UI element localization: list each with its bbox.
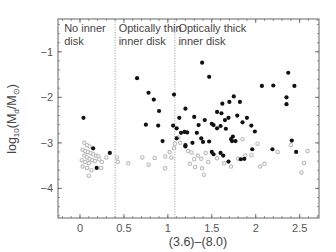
detection-marker: [226, 159, 230, 163]
detection-marker: [235, 113, 239, 117]
upper-limit-marker: [85, 166, 88, 169]
upper-limit-marker: [258, 165, 261, 168]
upper-limit-marker: [170, 156, 173, 159]
detection-marker: [195, 131, 199, 135]
detection-marker: [245, 116, 249, 120]
detection-marker: [91, 146, 95, 150]
detection-marker: [210, 122, 214, 126]
detection-marker: [215, 126, 219, 130]
y-tick-label: −2: [40, 91, 53, 103]
detection-marker: [270, 147, 274, 151]
detection-marker: [226, 116, 230, 120]
upper-limit-marker: [263, 162, 266, 165]
detection-marker: [292, 84, 296, 88]
detection-marker: [233, 139, 237, 143]
detection-marker: [250, 147, 254, 151]
detection-marker: [238, 100, 242, 104]
detection-marker: [284, 95, 288, 99]
detection-marker: [224, 127, 228, 131]
detection-marker: [286, 71, 290, 75]
upper-limit-marker: [80, 158, 83, 161]
detection-marker: [190, 141, 194, 145]
x-tick-label: 0: [77, 222, 83, 234]
upper-limit-marker: [100, 160, 103, 163]
upper-limit-marker: [229, 165, 232, 168]
upper-limit-marker: [215, 157, 218, 160]
upper-limit-marker: [256, 142, 259, 145]
detection-marker: [253, 129, 257, 133]
upper-limit-marker: [115, 156, 118, 159]
upper-limit-marker: [164, 155, 167, 158]
x-axis-title: (3.6)–(8.0): [169, 235, 227, 249]
detection-marker: [175, 136, 179, 140]
detection-marker: [249, 123, 253, 127]
detection-marker: [197, 123, 201, 127]
detection-marker: [203, 118, 207, 122]
y-tick-label: −1: [40, 46, 53, 58]
scatter-chart: No innerdiskOptically thininner diskOpti…: [0, 0, 336, 252]
detection-marker: [81, 116, 85, 120]
upper-limit-marker: [84, 160, 87, 163]
upper-limit-marker: [200, 167, 203, 170]
detection-marker: [171, 123, 175, 127]
detection-marker: [227, 100, 231, 104]
detection-marker: [160, 139, 164, 143]
detection-marker: [223, 118, 227, 122]
x-tick-label: 1: [165, 222, 171, 234]
x-tick-label: 0.5: [116, 222, 131, 234]
upper-limit-marker: [241, 138, 244, 141]
upper-limit-marker: [193, 158, 196, 161]
upper-limit-marker: [87, 162, 90, 165]
detection-marker: [232, 94, 236, 98]
upper-limit-marker: [172, 147, 175, 150]
detection-marker: [192, 115, 196, 119]
upper-limit-marker: [222, 162, 225, 165]
detection-marker: [172, 92, 176, 96]
upper-limit-marker: [178, 141, 181, 144]
detection-marker: [179, 131, 183, 135]
detection-marker: [95, 166, 99, 170]
upper-limit-marker: [306, 149, 309, 152]
detection-marker: [135, 76, 139, 80]
detection-marker: [207, 139, 211, 143]
upper-limit-marker: [276, 150, 279, 153]
upper-limit-marker: [173, 142, 176, 145]
upper-limit-marker: [186, 149, 189, 152]
detection-marker: [156, 123, 160, 127]
detection-marker: [183, 144, 187, 148]
detection-marker: [231, 134, 235, 138]
detection-marker: [152, 98, 156, 102]
x-axis-tick-labels: 00.511.522.5: [77, 222, 307, 234]
upper-limit-marker: [164, 167, 167, 170]
upper-limit-marker: [300, 171, 303, 174]
x-tick-label: 1.5: [204, 222, 219, 234]
detection-marker: [211, 152, 215, 156]
detection-marker: [220, 102, 224, 106]
detection-marker: [200, 61, 204, 65]
upper-limit-marker: [90, 168, 93, 171]
upper-limit-marker: [93, 159, 96, 162]
detection-marker: [144, 123, 148, 127]
upper-limit-marker: [168, 150, 171, 153]
plot-frame: [58, 19, 319, 218]
detection-marker: [271, 83, 275, 87]
upper-limit-marker: [87, 174, 90, 177]
detection-marker: [240, 120, 244, 124]
upper-limit-marker: [141, 156, 144, 159]
upper-limit-marker: [81, 165, 84, 168]
upper-limit-marker: [147, 163, 150, 166]
upper-limit-marker: [88, 145, 91, 148]
upper-limit-marker: [105, 156, 108, 159]
detection-marker: [260, 84, 264, 88]
detection-marker: [207, 75, 211, 79]
detection-marker: [108, 151, 112, 155]
detection-marker: [199, 136, 203, 140]
detection-marker: [294, 150, 298, 154]
detection-marker: [221, 154, 225, 158]
upper-limit-marker: [207, 160, 210, 163]
detection-marker: [185, 130, 189, 134]
upper-limit-marker: [204, 151, 207, 154]
upper-limit-marker: [116, 160, 119, 163]
detection-marker: [219, 111, 223, 115]
detection-marker: [242, 157, 246, 161]
